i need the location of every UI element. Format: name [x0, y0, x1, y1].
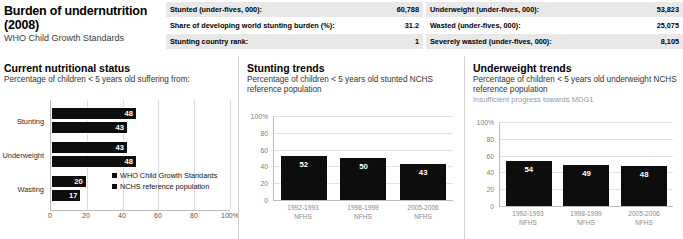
panel-subtitle: Percentage of children < 5 years old suf… [4, 75, 232, 85]
legend-swatch-icon [112, 173, 117, 178]
v-axis-category-line: NFHS [557, 218, 615, 227]
h-bar-value: 48 [124, 157, 135, 166]
h-bar: 43 [51, 121, 128, 134]
v-bar: 50 [340, 158, 386, 200]
v-axis-tick: 40 [486, 169, 494, 176]
v-axis-category-label: 1998-1999NFHS [333, 203, 393, 221]
legend-item: NCHS reference population [112, 181, 217, 192]
panel-title: Underweight trends [473, 62, 679, 74]
stats-column-right: Underweight (under-fives, 000): 53,823 W… [426, 2, 683, 52]
v-bar-value: 50 [359, 162, 368, 171]
v-axis-category-label: 1998-1999NFHS [557, 209, 615, 227]
h-bar: 48 [51, 107, 137, 120]
h-category-label: Stunting [4, 107, 48, 135]
panel-current-nutritional-status: Current nutritional status Percentage of… [0, 56, 238, 239]
h-bar: 17 [51, 189, 81, 202]
v-axis-category-line: NFHS [615, 218, 673, 227]
panel-underweight-trends: Underweight trends Percentage of childre… [464, 56, 683, 239]
stat-label: Stunted (under-fives, 000): [170, 5, 397, 14]
v-axis-tick: 60 [260, 146, 268, 153]
chart-stunting-trends: 100%806040200 525043 1992-1993NFHS1998-1… [247, 116, 457, 236]
v-bar-wrapper: 43 [400, 116, 446, 200]
v-axis-category-line: NFHS [273, 212, 333, 221]
stat-label: Underweight (under-fives, 000): [430, 5, 657, 14]
v-axis-category-label: 1992-1993NFHS [499, 209, 557, 227]
stat-value: 1 [415, 37, 419, 46]
stat-row: Stunted (under-fives, 000): 60,788 [166, 2, 423, 17]
v-bar-wrapper: 50 [340, 116, 386, 200]
h-bar-value: 48 [124, 109, 135, 118]
stat-value: 31.2 [405, 21, 419, 30]
h-axis-tick: 20 [82, 212, 90, 219]
v-axis-category-label: 2005-2006NFHS [615, 209, 673, 227]
panel-stunting-trends: Stunting trends Percentage of children <… [238, 56, 464, 239]
v-bar-value: 43 [419, 168, 428, 177]
stat-row: Underweight (under-fives, 000): 53,823 [426, 2, 683, 17]
v-bar-value: 49 [582, 169, 591, 178]
v-axis-tick: 80 [260, 129, 268, 136]
stat-label: Severely wasted (under-fives, 000): [430, 37, 661, 46]
panel-subtitle: Percentage of children < 5 years old stu… [247, 75, 458, 94]
stat-row: Stunting country rank: 1 [166, 34, 423, 49]
v-bar: 52 [281, 156, 327, 200]
stat-value: 53,823 [657, 5, 679, 14]
h-bar-group: 4843 [51, 107, 230, 135]
h-category-label: Wasting [4, 175, 48, 203]
v-bar-value: 54 [524, 165, 533, 174]
panels: Current nutritional status Percentage of… [0, 56, 683, 239]
v-axis-category-label: 1992-1993NFHS [273, 203, 333, 221]
v-axis-category-line: 1998-1999 [333, 203, 393, 212]
v-bar-wrapper: 49 [563, 122, 609, 206]
legend-item: WHO Child Growth Standards [112, 170, 217, 181]
h-axis-baseline [50, 210, 230, 211]
panel-note-mdg1: Insufficient progress towards MDG1 [473, 95, 679, 104]
h-bar-value: 43 [116, 123, 127, 132]
h-bar-value: 20 [74, 177, 85, 186]
v-axis-tick: 100% [251, 113, 268, 120]
v-bar-wrapper: 48 [621, 122, 667, 206]
v-plot-area: 525043 [273, 116, 453, 201]
chart-current-nutritional-status: StuntingUnderweightWasting 484343482017 … [4, 100, 234, 235]
stat-row: Wasted (under-fives, 000): 25,075 [426, 18, 683, 33]
v-bar: 48 [621, 166, 667, 206]
v-bars: 544948 [500, 122, 673, 206]
header: Burden of undernutrition (2008) WHO Chil… [0, 0, 683, 52]
h-axis-tick: 60 [154, 212, 162, 219]
v-axis-category-label: 2005-2006NFHS [393, 203, 453, 221]
legend-label: NCHS reference population [120, 181, 209, 192]
legend-label: WHO Child Growth Standards [120, 170, 217, 181]
h-bar: 48 [51, 155, 137, 168]
chart-underweight-trends: 100%806040200 544948 1992-1993NFHS1998-1… [473, 122, 677, 239]
v-axis-tick: 20 [486, 186, 494, 193]
summary-stats: Stunted (under-fives, 000): 60,788 Share… [166, 0, 683, 52]
v-y-axis-labels: 100%806040200 [247, 116, 271, 200]
v-axis-tick: 80 [486, 135, 494, 142]
h-bar-groups: 484343482017 [51, 100, 230, 210]
h-axis-tick: 0 [48, 212, 52, 219]
title-block: Burden of undernutrition (2008) WHO Chil… [0, 0, 166, 52]
v-axis-tick: 0 [264, 197, 268, 204]
h-axis-tick: 40 [118, 212, 126, 219]
v-axis-category-line: NFHS [393, 212, 453, 221]
v-axis-tick: 100% [477, 119, 494, 126]
stat-value: 8,105 [661, 37, 679, 46]
legend-swatch-icon [112, 184, 117, 189]
v-plot-area: 544948 [499, 122, 673, 207]
v-axis-category-line: 1998-1999 [557, 209, 615, 218]
panel-title: Current nutritional status [4, 62, 232, 74]
v-bar-wrapper: 52 [281, 116, 327, 200]
v-axis-tick: 20 [260, 180, 268, 187]
stat-label: Share of developing world stunting burde… [170, 21, 405, 30]
page-title: Burden of undernutrition (2008) [4, 4, 160, 32]
h-axis-ticks: 020406080100% [50, 212, 230, 224]
h-gridline [230, 100, 231, 210]
v-axis-category-line: NFHS [333, 212, 393, 221]
stat-row: Share of developing world stunting burde… [166, 18, 423, 33]
h-bar-value: 43 [116, 143, 127, 152]
v-bar: 49 [563, 165, 609, 206]
v-axis-category-line: 2005-2006 [615, 209, 673, 218]
stat-label: Wasted (under-fives, 000): [430, 21, 657, 30]
h-axis-tick: 80 [190, 212, 198, 219]
v-bar: 43 [400, 164, 446, 200]
page-subtitle: WHO Child Growth Standards [4, 33, 160, 44]
